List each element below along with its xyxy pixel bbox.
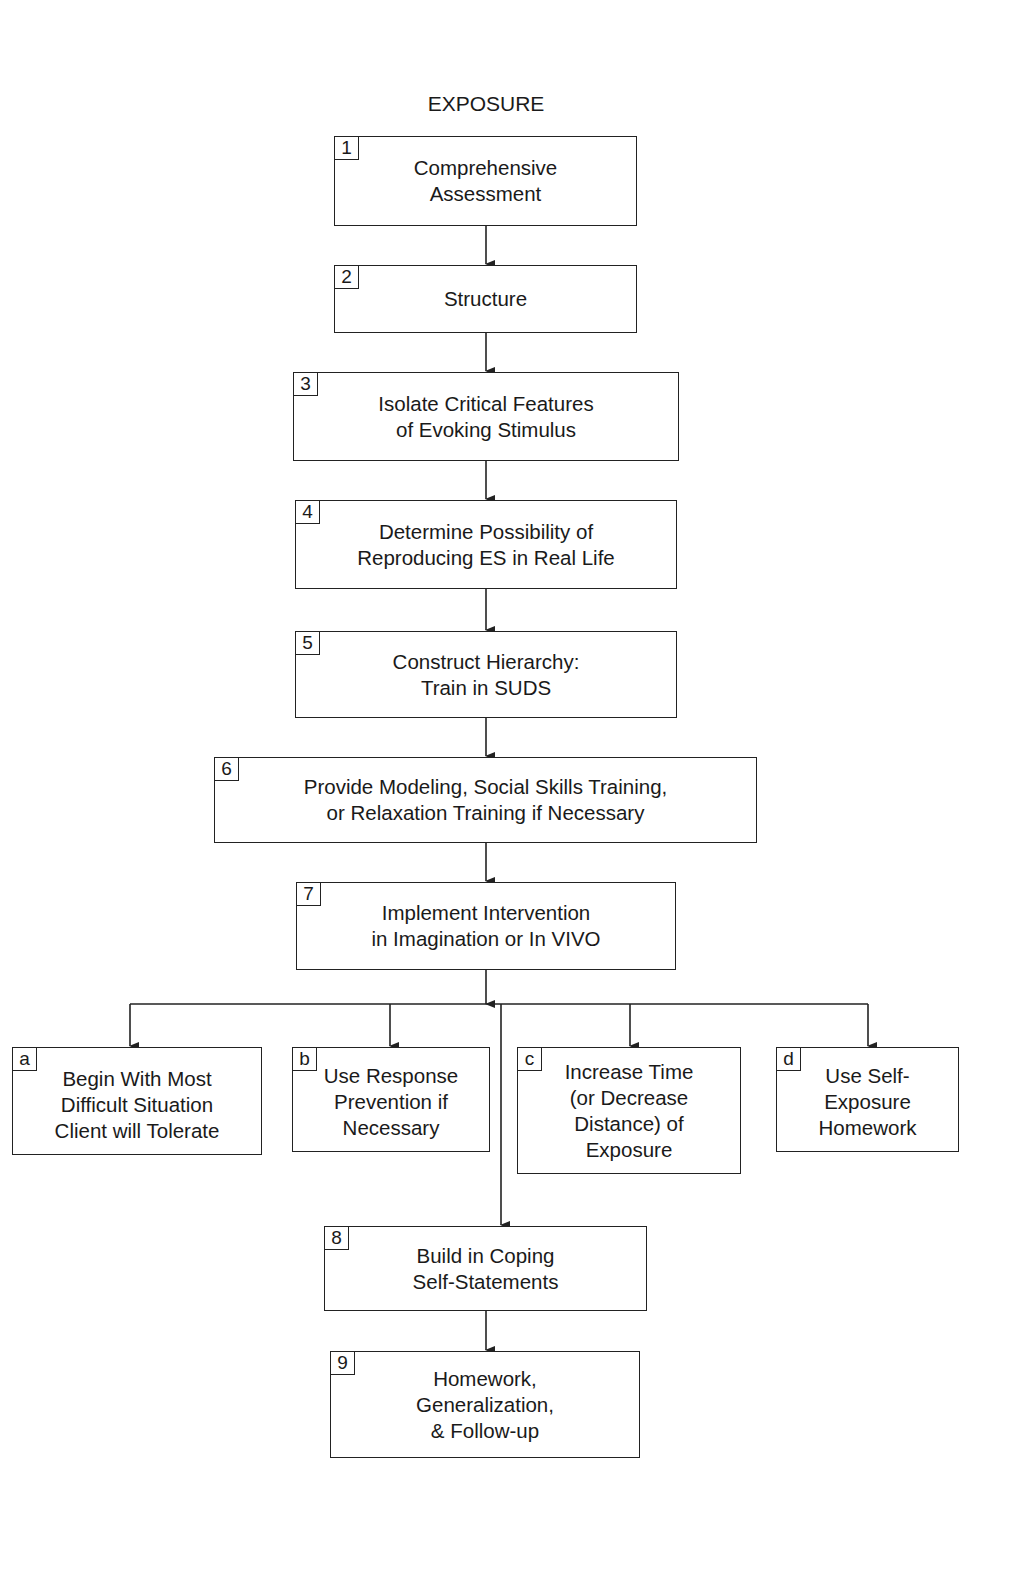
step-4-box: 4 Determine Possibility of Reproducing E… bbox=[295, 500, 677, 589]
step-5-box: 5 Construct Hierarchy: Train in SUDS bbox=[295, 631, 677, 718]
diagram-title: EXPOSURE bbox=[0, 92, 972, 116]
step-number: 8 bbox=[324, 1226, 349, 1250]
branch-letter: c bbox=[517, 1047, 542, 1071]
branch-label: Use Self- Exposure Homework bbox=[813, 1059, 923, 1141]
branch-letter: b bbox=[292, 1047, 317, 1071]
step-number: 2 bbox=[334, 265, 359, 289]
step-label: Build in Coping Self-Statements bbox=[407, 1243, 565, 1295]
step-label: Provide Modeling, Social Skills Training… bbox=[298, 774, 673, 826]
branch-letter: d bbox=[776, 1047, 801, 1071]
step-2-box: 2 Structure bbox=[334, 265, 637, 333]
branch-letter: a bbox=[12, 1047, 37, 1071]
step-number: 7 bbox=[296, 882, 321, 906]
step-number: 3 bbox=[293, 372, 318, 396]
branch-a-box: a Begin With Most Difficult Situation Cl… bbox=[12, 1047, 262, 1155]
step-7-box: 7 Implement Intervention in Imagination … bbox=[296, 882, 676, 970]
step-number: 6 bbox=[214, 757, 239, 781]
step-3-box: 3 Isolate Critical Features of Evoking S… bbox=[293, 372, 679, 461]
branch-label: Use Response Prevention if Necessary bbox=[318, 1059, 464, 1141]
step-label: Isolate Critical Features of Evoking Sti… bbox=[372, 391, 599, 443]
step-label: Determine Possibility of Reproducing ES … bbox=[351, 519, 621, 571]
step-number: 1 bbox=[334, 136, 359, 160]
step-label: Construct Hierarchy: Train in SUDS bbox=[387, 649, 586, 701]
branch-c-box: c Increase Time (or Decrease Distance) o… bbox=[517, 1047, 741, 1174]
branch-d-box: d Use Self- Exposure Homework bbox=[776, 1047, 959, 1152]
step-1-box: 1 Comprehensive Assessment bbox=[334, 136, 637, 226]
step-number: 4 bbox=[295, 500, 320, 524]
step-label: Implement Intervention in Imagination or… bbox=[365, 900, 606, 952]
branch-label: Increase Time (or Decrease Distance) of … bbox=[559, 1059, 700, 1163]
step-label: Homework, Generalization, & Follow-up bbox=[410, 1366, 560, 1444]
step-label: Structure bbox=[438, 286, 533, 312]
step-label: Comprehensive Assessment bbox=[408, 155, 564, 207]
step-9-box: 9 Homework, Generalization, & Follow-up bbox=[330, 1351, 640, 1458]
step-number: 5 bbox=[295, 631, 320, 655]
step-number: 9 bbox=[330, 1351, 355, 1375]
branch-b-box: b Use Response Prevention if Necessary bbox=[292, 1047, 490, 1152]
step-8-box: 8 Build in Coping Self-Statements bbox=[324, 1226, 647, 1311]
step-6-box: 6 Provide Modeling, Social Skills Traini… bbox=[214, 757, 757, 843]
branch-label: Begin With Most Difficult Situation Clie… bbox=[49, 1058, 226, 1144]
